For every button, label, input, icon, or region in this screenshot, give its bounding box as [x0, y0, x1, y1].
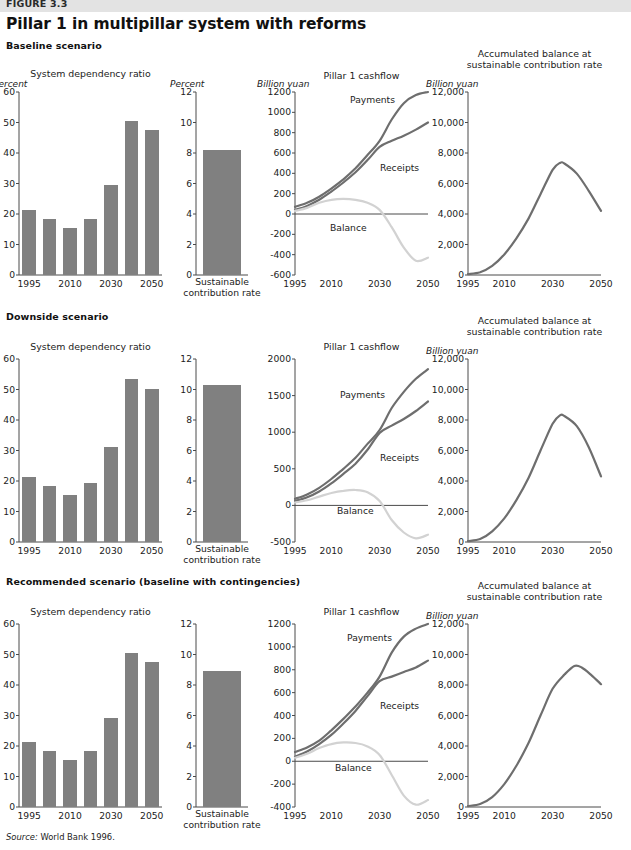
x-tick-label: 1995	[448, 810, 488, 821]
y-tick-label: 10,000	[426, 649, 464, 660]
x-tick-label: 2030	[533, 810, 573, 821]
x-tick-label: 2050	[581, 810, 621, 821]
y-tick-label: 8,000	[426, 679, 464, 690]
y-tick-label: 6,000	[426, 710, 464, 721]
y-tick-label: 2,000	[426, 771, 464, 782]
chart-title: sustainable contribution rate	[433, 591, 631, 602]
x-tick-label: 2010	[484, 810, 524, 821]
chart-title: Accumulated balance at	[433, 580, 631, 591]
y-tick-label: 4,000	[426, 740, 464, 751]
axis-layer-accum-recommended	[0, 0, 631, 850]
axis-unit-label: Billion yuan	[426, 611, 479, 621]
